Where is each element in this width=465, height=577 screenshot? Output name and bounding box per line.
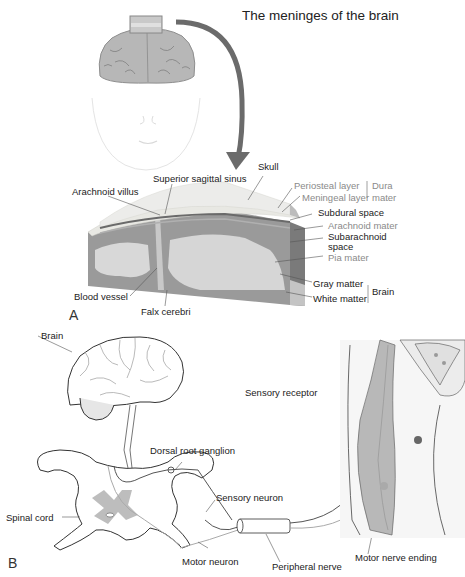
panel-letter-a: A	[69, 308, 78, 322]
label-dura-mater-2: mater	[372, 193, 396, 203]
label-peripheral-nerve: Peripheral nerve	[272, 562, 342, 572]
figure-title: The meninges of the brain	[242, 9, 399, 23]
label-arachnoid-villus: Arachnoid villus	[72, 187, 139, 197]
label-brain-group: Brain	[372, 287, 394, 297]
label-dorsal-root-ganglion: Dorsal root ganglion	[150, 446, 235, 456]
label-brain: Brain	[41, 331, 63, 341]
label-pia-mater: Pia mater	[328, 253, 369, 263]
label-gray-matter: Gray matter	[313, 279, 363, 289]
label-meningeal-layer: Meningeal layer	[302, 193, 369, 203]
label-spinal-cord: Spinal cord	[6, 513, 54, 523]
label-motor-nerve-ending: Motor nerve ending	[355, 553, 437, 563]
illustration-canvas	[0, 0, 465, 577]
label-sensory-neuron: Sensory neuron	[216, 493, 283, 503]
panel-letter-b: B	[8, 556, 17, 570]
label-periosteal-layer: Periosteal layer	[294, 181, 359, 191]
label-falx-cerebri: Falx cerebri	[141, 307, 191, 317]
label-white-matter: White matter	[313, 294, 367, 304]
label-motor-neuron: Motor neuron	[182, 557, 239, 567]
label-arachnoid-mater: Arachnoid mater	[328, 221, 398, 231]
label-superior-sagittal-sinus: Superior sagittal sinus	[153, 174, 246, 184]
spinal-cord-section	[38, 450, 233, 550]
label-skull: Skull	[258, 162, 279, 172]
label-subdural-space: Subdural space	[318, 208, 384, 218]
leg-pelvis	[340, 340, 465, 538]
label-sensory-receptor: Sensory receptor	[245, 388, 317, 398]
label-blood-vessel: Blood vessel	[74, 292, 128, 302]
head-illustration	[92, 98, 200, 170]
label-subarachnoid-space-2: space	[328, 242, 353, 252]
brain-top-view	[99, 16, 195, 83]
label-dura-mater-1: Dura	[372, 181, 393, 191]
